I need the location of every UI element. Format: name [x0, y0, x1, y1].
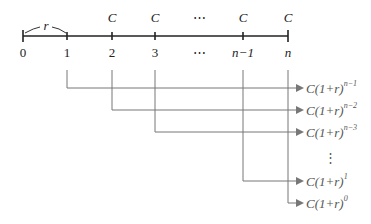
flow-line-n	[288, 70, 302, 203]
future-value-formulas: C(1+r)n−1 C(1+r)n−2 C(1+r)n−3 ⋮ C(1+r)1 …	[306, 79, 357, 211]
payment-label-ellipsis: ⋯	[193, 10, 206, 25]
flow-line-n-minus-1	[243, 70, 302, 181]
formula-1: C(1+r)n−1	[306, 79, 357, 96]
payment-label-n-minus-1: C	[239, 10, 248, 25]
tick-label-1: 1	[64, 45, 71, 60]
flow-line-1	[67, 70, 302, 88]
flow-line-3	[155, 70, 302, 132]
formula-2: C(1+r)n−2	[306, 101, 357, 118]
tick-label-2: 2	[109, 45, 116, 60]
tick-label-n: n	[285, 45, 292, 60]
flow-line-2	[112, 70, 302, 110]
formula-n-minus-1: C(1+r)1	[306, 172, 348, 189]
timeline-axis	[23, 30, 288, 42]
vertical-ellipsis: ⋮	[324, 150, 337, 165]
formula-3: C(1+r)n−3	[306, 123, 357, 140]
tick-label-0: 0	[20, 45, 27, 60]
tick-label-ellipsis: ⋯	[193, 45, 206, 60]
payment-label-2: C	[108, 10, 117, 25]
annuity-timeline-diagram: r 0 1 2 3 ⋯ n−1 n C C ⋯ C C C(1+r)n−1 C(…	[0, 0, 371, 224]
payment-labels: C C ⋯ C C	[108, 10, 293, 25]
compounding-flows	[67, 70, 302, 203]
interest-rate-arc: r	[25, 18, 66, 33]
formula-n: C(1+r)0	[306, 194, 348, 211]
rate-label: r	[43, 18, 49, 33]
payment-label-3: C	[151, 10, 160, 25]
tick-label-n-minus-1: n−1	[232, 45, 254, 60]
tick-label-3: 3	[152, 45, 159, 60]
payment-label-n: C	[284, 10, 293, 25]
tick-labels: 0 1 2 3 ⋯ n−1 n	[20, 45, 292, 60]
